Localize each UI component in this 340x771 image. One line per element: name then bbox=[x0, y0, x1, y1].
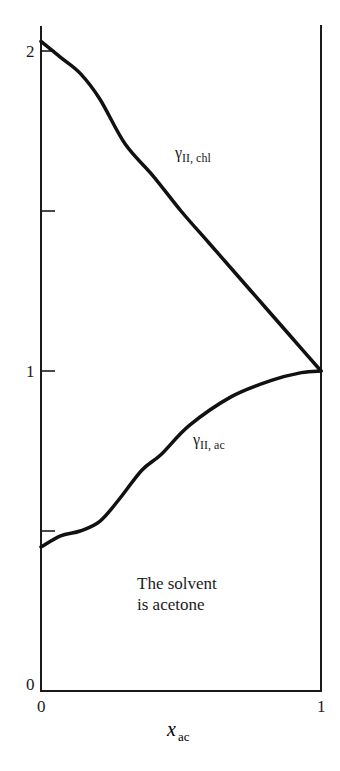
y-tick-label: 0 bbox=[26, 675, 35, 694]
x-axis-label: xac bbox=[166, 718, 190, 744]
activity-coefficient-chart: 012 01 γII, chl γII, ac The solvent is a… bbox=[0, 0, 340, 771]
x-tick-label: 1 bbox=[317, 697, 326, 716]
annotation-line-2: is acetone bbox=[137, 595, 205, 614]
y-tick-label: 2 bbox=[26, 42, 35, 61]
curve-label-chl: γII, chl bbox=[174, 144, 211, 165]
x-ticks: 01 bbox=[37, 697, 326, 716]
curve-gamma-II-ac bbox=[41, 371, 321, 547]
annotation-line-1: The solvent bbox=[137, 574, 217, 593]
curve-label-ac: γII, ac bbox=[192, 431, 225, 452]
y-tick-label: 1 bbox=[26, 362, 35, 381]
curve-gamma-II-chl bbox=[41, 41, 321, 371]
x-tick-label: 0 bbox=[37, 697, 46, 716]
